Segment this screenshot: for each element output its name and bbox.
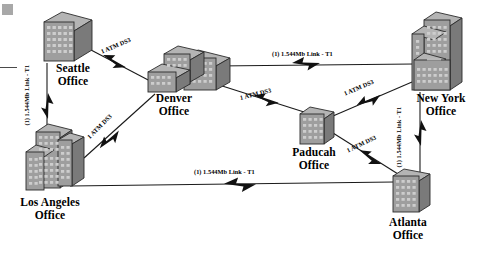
- link-label-new-york-atlanta: (1) 1.544Mb Link - T1: [395, 107, 402, 168]
- building-paducah: [300, 107, 334, 144]
- building-atlanta: [393, 169, 430, 212]
- network-diagram-canvas: Seattle Office Denver Office New York Of…: [0, 0, 479, 255]
- site-label-denver: Denver Office: [140, 92, 208, 118]
- ny-side-top: [450, 18, 462, 90]
- link-label-denver-new-york: (1) 1.544Mb Link - T1: [272, 50, 333, 57]
- bolt-los-angeles-atlanta: [224, 177, 256, 192]
- building-denver: [148, 46, 230, 92]
- atlanta-side: [419, 174, 430, 212]
- la-side-mid: [72, 137, 84, 186]
- building-new-york: [412, 12, 462, 90]
- link-label-los-angeles-atlanta: (1) 1.544Mb Link - T1: [194, 168, 255, 175]
- bolt-denver-new-york: [292, 57, 320, 71]
- bolt-paducah-atlanta: [356, 146, 385, 170]
- bolt-los-angeles-denver: [96, 126, 124, 153]
- site-label-new-york: New York Office: [408, 92, 474, 118]
- link-label-seattle-los-angeles: (1) 1.544Mb Link - T1: [23, 65, 30, 126]
- building-seattle: [44, 0, 92, 61]
- bolt-paducah-new-york: [354, 90, 383, 112]
- site-label-los-angeles: Los Angeles Office: [4, 196, 96, 222]
- building-los-angeles: [26, 124, 84, 190]
- site-label-atlanta: Atlanta Office: [378, 216, 438, 242]
- site-label-seattle: Seattle Office: [44, 62, 102, 88]
- la-face-mid: [58, 140, 72, 186]
- site-label-paducah: Paducah Office: [283, 146, 345, 172]
